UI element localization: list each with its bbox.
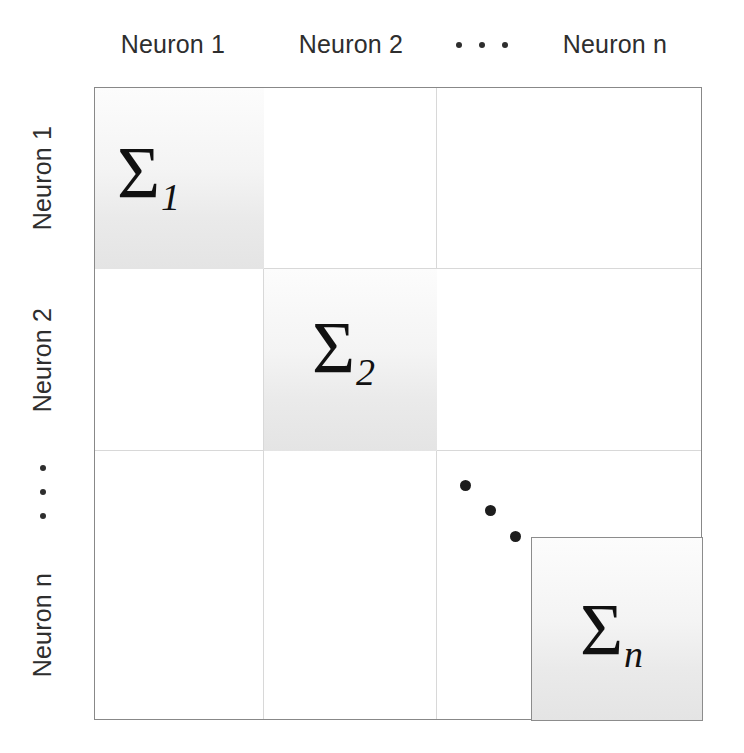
- ellipsis-dot: [40, 465, 46, 471]
- column-header-ellipsis-icon: [456, 42, 508, 48]
- ellipsis-dot: [40, 513, 46, 519]
- row-header-neuron-2: Neuron 2: [30, 300, 55, 420]
- sigma-subscript: 1: [161, 176, 180, 218]
- ellipsis-dot: [456, 42, 462, 48]
- sigma-block-n: Σn: [531, 537, 703, 721]
- ellipsis-dot: [485, 505, 496, 516]
- figure-canvas: Neuron 1 Neuron 2 Neuron n Neuron 1 Neur…: [0, 0, 744, 753]
- ellipsis-dot: [460, 480, 471, 491]
- sigma-block-2: Σ2: [264, 269, 437, 451]
- column-header-neuron-2: Neuron 2: [291, 32, 411, 57]
- sigma-symbol: Σ: [312, 307, 355, 389]
- sigma-symbol: Σ: [580, 589, 623, 671]
- sigma-block-1: Σ1: [95, 88, 264, 269]
- column-header-neuron-n: Neuron n: [555, 32, 675, 57]
- row-header-neuron-n: Neuron n: [30, 560, 55, 690]
- sigma-block-n-label: Σn: [580, 593, 642, 667]
- sigma-symbol: Σ: [117, 132, 160, 214]
- sigma-block-1-label: Σ1: [117, 136, 179, 210]
- row-header-neuron-1: Neuron 1: [30, 118, 55, 238]
- ellipsis-dot: [479, 42, 485, 48]
- covariance-matrix: Σ1 Σ2 Σn: [94, 87, 702, 720]
- sigma-subscript: n: [624, 633, 643, 675]
- sigma-subscript: 2: [356, 351, 375, 393]
- sigma-block-2-label: Σ2: [312, 311, 374, 385]
- ellipsis-dot: [510, 531, 521, 542]
- ellipsis-dot: [40, 489, 46, 495]
- row-header-ellipsis-icon: [40, 465, 46, 519]
- ellipsis-dot: [502, 42, 508, 48]
- column-header-neuron-1: Neuron 1: [113, 32, 233, 57]
